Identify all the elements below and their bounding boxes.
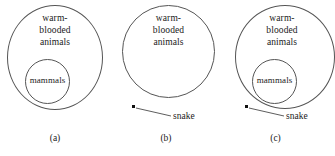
panel-caption-a: (a) bbox=[0, 133, 110, 143]
diagram-panel-a: warm- blooded animals mammals (a) bbox=[0, 0, 110, 156]
panel-caption-c: (c) bbox=[222, 133, 329, 143]
diagram-panel-b: warm- blooded animals snake (b) bbox=[110, 0, 222, 156]
point-label-snake: snake bbox=[286, 111, 308, 121]
diagram-panel-c: warm- blooded animals mammals snake (c) bbox=[222, 0, 329, 156]
set-label-mammals: mammals bbox=[25, 75, 70, 87]
set-label-warm-blooded-animals: warm- blooded animals bbox=[0, 13, 110, 48]
panel-caption-b: (b) bbox=[110, 133, 222, 143]
point-label-snake: snake bbox=[173, 111, 195, 121]
